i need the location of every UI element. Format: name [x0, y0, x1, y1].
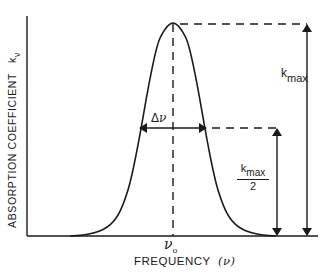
y-axis-label: ABSORPTION COEFFICIENTkν [6, 52, 21, 228]
half-max-label: kmax 2 [237, 162, 269, 192]
center-frequency-label: νo [164, 236, 177, 255]
kmax-label: kmax [281, 66, 308, 84]
x-axis-label: FREQUENCY (ν) [134, 254, 236, 268]
fwhm-label: Δν [151, 111, 166, 125]
